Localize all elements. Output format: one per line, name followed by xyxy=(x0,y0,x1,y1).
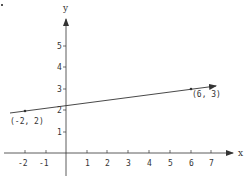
x-tick-label: -1 xyxy=(39,159,49,168)
y-tick-label: 2 xyxy=(57,106,62,115)
x-tick-label: 2 xyxy=(105,159,110,168)
y-tick-label: 4 xyxy=(57,63,62,72)
x-tick-label: 6 xyxy=(189,159,194,168)
plotted-line xyxy=(10,86,216,113)
y-ticks xyxy=(63,46,66,132)
x-ticks xyxy=(25,150,211,153)
x-tick-label: 7 xyxy=(209,159,214,168)
coordinate-plane: x y -2 -1 1 2 3 4 5 6 7 1 2 3 4 5 xyxy=(0,0,245,178)
y-tick-label: 1 xyxy=(57,128,62,137)
point-marker xyxy=(24,110,27,113)
x-tick-label: 4 xyxy=(147,159,152,168)
y-tick-labels: 1 2 3 4 5 xyxy=(57,42,62,137)
x-tick-label: -2 xyxy=(18,159,28,168)
x-tick-label: 5 xyxy=(168,159,173,168)
y-tick-label: 5 xyxy=(57,42,62,51)
x-tick-label: 1 xyxy=(85,159,90,168)
x-tick-labels: -2 -1 1 2 3 4 5 6 7 xyxy=(18,159,214,168)
corner-mark xyxy=(1,4,3,6)
x-axis-label: x xyxy=(238,148,243,158)
y-axis-label: y xyxy=(62,3,69,13)
point-label: (-2, 2) xyxy=(10,117,44,126)
point-label: (6, 3) xyxy=(192,90,221,99)
x-tick-label: 3 xyxy=(126,159,131,168)
y-tick-label: 3 xyxy=(57,85,62,94)
